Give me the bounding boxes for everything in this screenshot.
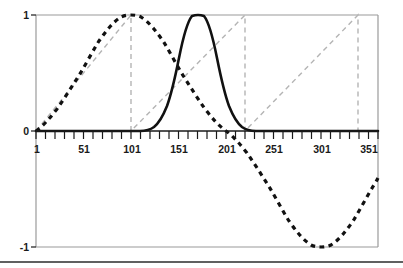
chart-figure: 1 0 -1 [0,0,403,268]
chart-canvas: 1 0 -1 [0,0,403,268]
x-tick-label-151: 151 [170,143,188,155]
x-tick-label-301: 301 [313,143,331,155]
x-tick-label-351: 351 [360,143,378,155]
x-tick-label-101: 101 [123,143,141,155]
y-tick-label-1: 1 [23,9,29,21]
y-tick-label-0: 0 [23,125,29,137]
x-tick-label-201: 201 [218,143,236,155]
x-tick-label-251: 251 [265,143,283,155]
chart-background [0,0,403,268]
y-tick-label-neg1: -1 [20,241,29,253]
x-tick-label-51: 51 [78,143,90,155]
x-tick-label-1: 1 [34,143,40,155]
